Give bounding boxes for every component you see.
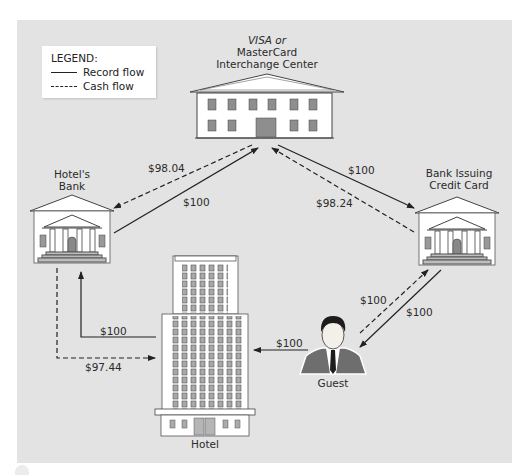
interchange-label-line2: MasterCard [207, 46, 327, 58]
amount-label: $100 [276, 337, 303, 349]
bank-building-icon [415, 197, 499, 265]
hotel-label: Hotel [180, 438, 230, 450]
dashed-line-icon [51, 86, 77, 87]
amount-label: $100 [360, 294, 387, 306]
legend-item-cash-flow: Cash flow [51, 80, 134, 92]
interchange-label-line3: Interchange Center [197, 58, 337, 70]
amount-label: $97.44 [85, 361, 122, 373]
office-building-icon [190, 74, 344, 138]
amount-label: $100 [406, 306, 433, 318]
flow-record-hotels-bank-to-interchange [114, 148, 258, 233]
legend-item-record-flow: Record flow [51, 66, 144, 78]
legend-title: LEGEND: [51, 52, 98, 64]
legend-label: Record flow [83, 66, 144, 78]
person-portrait-icon [300, 316, 366, 374]
hotel-tower-icon [155, 256, 255, 436]
solid-line-icon [51, 72, 77, 73]
legend-box: LEGEND: Record flow Cash flow [42, 46, 156, 98]
legend-label: Cash flow [83, 80, 134, 92]
amount-label: $98.04 [148, 162, 185, 174]
hotels-bank-label-line1: Hotel's [42, 168, 102, 180]
flow-cash-hotels-bank-to-hotel [57, 268, 155, 358]
amount-label: $100 [183, 196, 210, 208]
flow-cash-issuing-bank-to-interchange [272, 148, 414, 232]
issuing-bank-label-line2: Credit Card [412, 179, 506, 191]
amount-label: $100 [348, 164, 375, 176]
decorative-mark [15, 465, 29, 475]
bank-building-icon [30, 195, 114, 263]
amount-label: $98.24 [316, 197, 353, 209]
interchange-label-line1: VISA or [207, 34, 327, 46]
hotels-bank-label-line2: Bank [42, 180, 102, 192]
guest-label: Guest [308, 377, 358, 389]
amount-label: $100 [100, 325, 127, 337]
issuing-bank-label-line1: Bank Issuing [412, 167, 506, 179]
